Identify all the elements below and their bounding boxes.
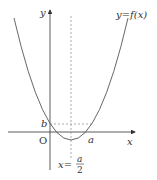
symmetry-lhs: x= bbox=[58, 159, 72, 170]
b-label: b bbox=[41, 118, 47, 129]
function-label: y=f(x) bbox=[115, 9, 147, 20]
diagram: y y=f(x) b O a x x= a 2 bbox=[0, 0, 157, 180]
y-axis-label: y bbox=[39, 7, 46, 18]
origin-label: O bbox=[39, 135, 47, 146]
symmetry-num: a bbox=[77, 154, 82, 164]
symmetry-den: 2 bbox=[77, 165, 83, 175]
a-label: a bbox=[88, 134, 94, 145]
x-axis-label: x bbox=[127, 136, 133, 147]
